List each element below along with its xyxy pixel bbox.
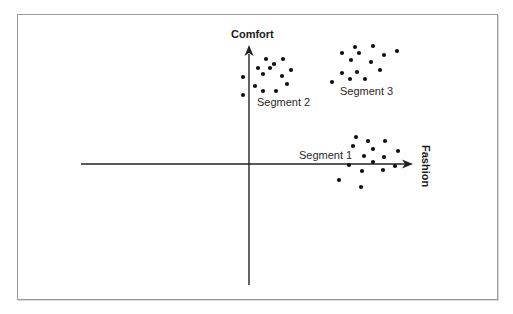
data-point bbox=[382, 53, 386, 57]
data-point bbox=[363, 77, 367, 81]
data-point bbox=[253, 84, 257, 88]
data-point bbox=[348, 77, 352, 81]
data-point bbox=[337, 178, 341, 182]
data-point bbox=[261, 72, 265, 76]
data-point bbox=[261, 89, 265, 93]
data-point bbox=[359, 185, 363, 189]
data-point bbox=[340, 71, 344, 75]
y-axis bbox=[245, 45, 254, 285]
data-point bbox=[349, 58, 353, 62]
data-point bbox=[378, 68, 382, 72]
data-point bbox=[241, 75, 245, 79]
data-point bbox=[395, 49, 399, 53]
data-point bbox=[355, 70, 359, 74]
x-axis bbox=[81, 160, 413, 169]
data-point bbox=[256, 66, 260, 70]
data-point bbox=[381, 168, 385, 172]
x-axis-label: Fashion bbox=[420, 145, 432, 187]
data-point bbox=[366, 139, 370, 143]
data-point bbox=[285, 82, 289, 86]
data-point bbox=[369, 60, 373, 64]
segment-1-label: Segment 1 bbox=[299, 149, 352, 161]
data-point bbox=[330, 80, 334, 84]
segment-3-points bbox=[330, 44, 399, 84]
data-point bbox=[360, 169, 364, 173]
data-point bbox=[281, 57, 285, 61]
data-point bbox=[351, 144, 355, 148]
data-point bbox=[347, 163, 351, 167]
segment-1-points bbox=[337, 135, 400, 189]
data-point bbox=[371, 147, 375, 151]
data-point bbox=[393, 164, 397, 168]
y-axis-label: Comfort bbox=[231, 28, 274, 40]
data-point bbox=[354, 135, 358, 139]
data-point bbox=[371, 160, 375, 164]
perceptual-map bbox=[0, 0, 513, 314]
data-point bbox=[383, 139, 387, 143]
data-point bbox=[396, 149, 400, 153]
data-point bbox=[241, 93, 245, 97]
data-point bbox=[274, 89, 278, 93]
data-point bbox=[340, 51, 344, 55]
data-points bbox=[241, 44, 400, 189]
data-point bbox=[362, 154, 366, 158]
data-point bbox=[289, 68, 293, 72]
data-point bbox=[353, 45, 357, 49]
data-point bbox=[272, 62, 276, 66]
data-point bbox=[371, 44, 375, 48]
data-point bbox=[280, 74, 284, 78]
data-point bbox=[268, 66, 272, 70]
data-point bbox=[264, 57, 268, 61]
data-point bbox=[357, 51, 361, 55]
segment-3-label: Segment 3 bbox=[340, 85, 393, 97]
data-point bbox=[382, 155, 386, 159]
segment-2-label: Segment 2 bbox=[257, 96, 310, 108]
